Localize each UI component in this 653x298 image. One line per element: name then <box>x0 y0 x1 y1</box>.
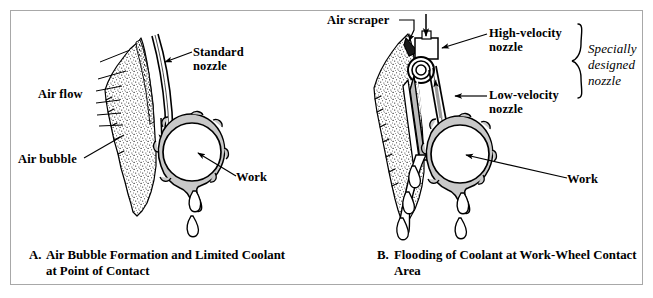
caption-a-letter: A. <box>29 247 46 263</box>
grinding-wheel-a <box>105 38 156 216</box>
work-circle-b <box>431 125 489 183</box>
caption-a-line1: Air Bubble Formation and Limited Coolant <box>46 248 285 262</box>
label-low-velocity-nozzle: Low-velocitynozzle <box>489 88 559 116</box>
coolant-drip-b-5 <box>455 218 466 239</box>
label-air-bubble: Air bubble <box>18 152 77 166</box>
label-work-a: Work <box>236 170 267 184</box>
caption-panel-a: A.Air Bubble Formation and Limited Coola… <box>29 247 285 279</box>
caption-panel-b: B.Flooding of Coolant at Work-Wheel Cont… <box>377 247 637 279</box>
caption-b-line1: Flooding of Coolant at Work-Wheel Contac… <box>394 248 637 262</box>
label-air-scraper: Air scraper <box>327 13 389 27</box>
caption-a-line2: at Point of Contact <box>29 263 285 279</box>
label-work-b: Work <box>567 172 598 186</box>
label-standard-nozzle: Standardnozzle <box>193 45 244 73</box>
nozzle-group-brace-b <box>572 24 582 98</box>
leader-standard-nozzle-a <box>165 52 192 62</box>
label-air-flow: Air flow <box>38 87 83 101</box>
label-high-velocity-nozzle: High-velocitynozzle <box>489 26 562 54</box>
coolant-drip-a-2 <box>187 216 198 237</box>
caption-b-letter: B. <box>377 247 394 263</box>
coolant-drip-b-4 <box>457 193 468 214</box>
figure-root: Standardnozzle Air flow Air bubble Work … <box>0 0 653 298</box>
work-circle-a <box>163 123 221 181</box>
air-scraper-roller-inner-b <box>416 65 426 75</box>
coolant-drip-a-1 <box>189 191 200 212</box>
leader-high-velocity-nozzle-b <box>442 34 487 48</box>
label-specially-designed-nozzle: Speciallydesignednozzle <box>588 41 637 89</box>
high-velocity-nozzle-body-b <box>415 38 438 59</box>
caption-b-line2: Area <box>377 263 637 279</box>
